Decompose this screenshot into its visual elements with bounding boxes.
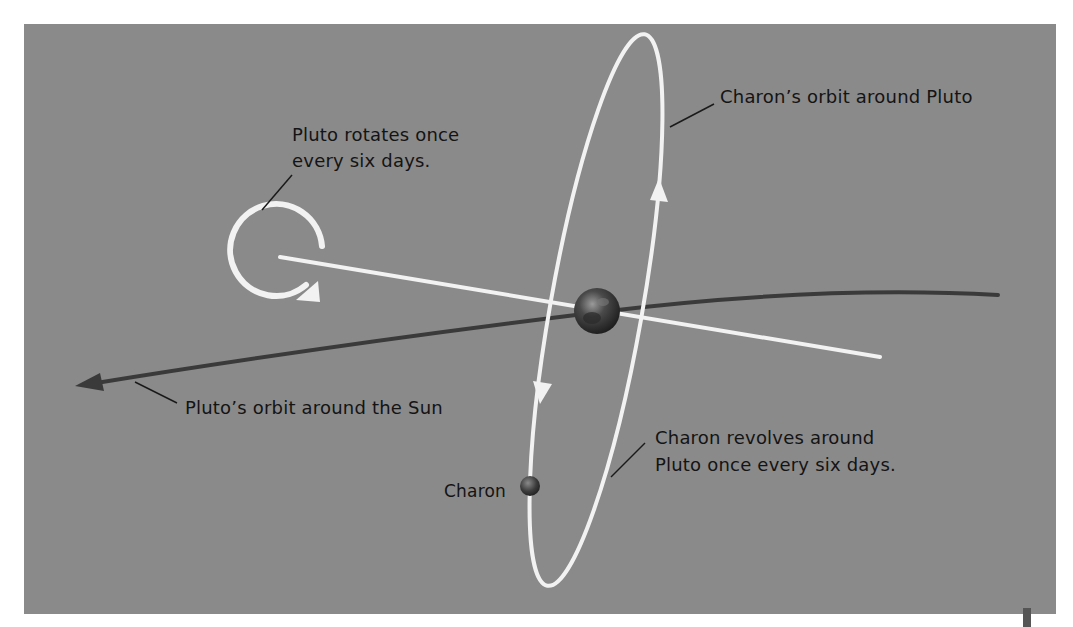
leader-pluto-orbit [135, 382, 177, 403]
leader-charon-revolves [611, 443, 645, 477]
pluto-orbit-path [75, 292, 998, 391]
label-charon-orbit: Charon’s orbit around Pluto [720, 84, 973, 109]
charon-body [520, 476, 540, 496]
label-charon-revolves-line1: Charon revolves around [655, 425, 874, 450]
pluto-body [574, 288, 620, 334]
label-rotation-line1: Pluto rotates once [292, 122, 459, 147]
leader-charon-orbit [670, 104, 714, 127]
label-charon-revolves-line2: Pluto once every six days. [655, 452, 896, 477]
orbit-arrowhead-icon [75, 373, 104, 391]
label-charon: Charon [444, 479, 506, 504]
label-pluto-orbit: Pluto’s orbit around the Sun [185, 395, 443, 420]
rotation-arrow-icon [230, 204, 322, 302]
orbit-up-arrow-icon [650, 178, 668, 202]
page-edge-marker [1023, 608, 1031, 627]
label-rotation-line2: every six days. [292, 148, 431, 173]
